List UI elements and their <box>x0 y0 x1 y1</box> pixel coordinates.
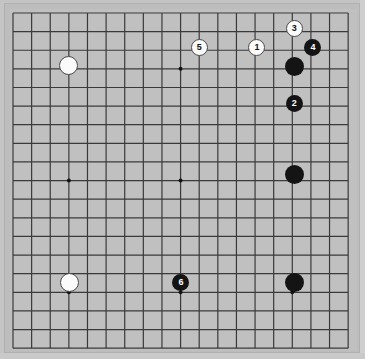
stone-move-number: 6 <box>179 278 184 287</box>
star-point <box>67 179 71 183</box>
go-board-diagram[interactable]: 513426 <box>0 0 365 359</box>
move-2-black[interactable]: 2 <box>286 95 303 112</box>
move-3-white[interactable]: 3 <box>286 20 303 37</box>
stone-move-number: 2 <box>292 99 297 108</box>
move-5-white[interactable]: 5 <box>191 39 208 56</box>
stone-move-number: 5 <box>197 43 202 52</box>
stone-move-number: 3 <box>292 24 297 33</box>
star-point <box>179 179 183 183</box>
white-stone-upper-left[interactable] <box>59 56 78 75</box>
stone-move-number: 1 <box>255 43 260 52</box>
stone-move-number: 4 <box>310 43 315 52</box>
star-point <box>179 67 183 71</box>
black-stone-upper-right[interactable] <box>285 57 304 76</box>
